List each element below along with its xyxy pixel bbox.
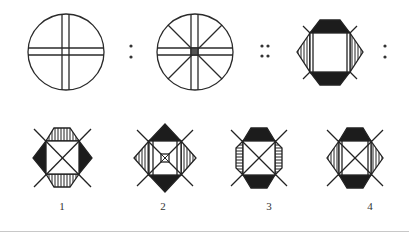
option-3-label: 3 — [259, 200, 279, 212]
analogy-diagram — [0, 0, 409, 233]
option-1-figure[interactable] — [33, 128, 92, 187]
option-2-figure[interactable] — [134, 124, 196, 192]
figure-b-circle-spokes — [157, 14, 233, 90]
option-2-label: 2 — [153, 200, 173, 212]
colon-separator-end — [383, 44, 386, 58]
option-1-label: 1 — [52, 200, 72, 212]
option-3-figure[interactable] — [231, 128, 287, 188]
option-4-figure[interactable] — [327, 128, 383, 188]
colon-separator — [129, 44, 132, 58]
bottom-divider — [0, 231, 409, 232]
option-4-label: 4 — [360, 200, 380, 212]
figure-a-circle-cross — [28, 14, 104, 90]
figure-c-framed-square — [297, 20, 363, 85]
double-colon-separator — [260, 44, 269, 57]
